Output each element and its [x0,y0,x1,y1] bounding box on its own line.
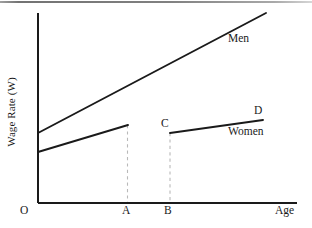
x-tick-label-a: A [122,205,130,217]
origin-label: O [20,205,28,217]
chart-figure: Wage Rate (W) O A B Age Men Women C D [0,0,312,228]
chart-plot-area [0,0,312,228]
women-wage-line-segment-oa [38,125,128,152]
x-tick-label-b: B [164,205,172,217]
x-axis-label: Age [275,205,294,217]
y-axis-label-text: Wage Rate (W) [5,77,17,146]
series-label-women: Women [228,126,263,138]
series-label-men: Men [228,33,249,45]
y-axis-label: Wage Rate (W) [2,58,20,166]
point-label-d: D [254,105,262,117]
men-wage-line [38,13,266,133]
point-label-c: C [161,118,169,130]
